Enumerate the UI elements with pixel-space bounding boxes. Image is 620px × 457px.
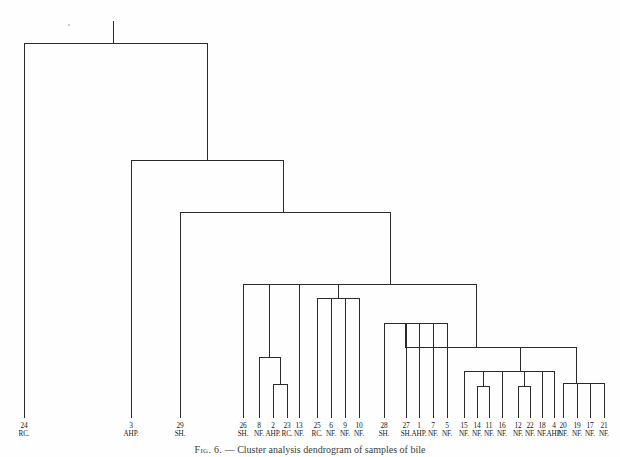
leaf-code-21: NF.: [589, 430, 619, 439]
figure-container: 24RC.3AHP.29SH.26SH.8NF.2AHP.23RC.13NF.2…: [0, 0, 620, 457]
leaf-id-29: 29: [165, 421, 195, 430]
figure-caption: Fig. 6. — Cluster analysis dendrogram of…: [60, 444, 560, 456]
caption-text: Cluster analysis dendrogram of samples o…: [237, 444, 425, 455]
caption-label: Fig. 6.: [195, 444, 223, 455]
dendrogram-plot: [0, 0, 620, 457]
leaf-id-24: 24: [9, 421, 39, 430]
leaf-label-21[interactable]: 21NF.: [589, 421, 619, 439]
leaf-code-3: AHP.: [116, 430, 146, 439]
leaf-id-3: 3: [116, 421, 146, 430]
leaf-label-24[interactable]: 24RC.: [9, 421, 39, 439]
leaf-id-21: 21: [589, 421, 619, 430]
leaf-tick-marks: [24, 406, 604, 418]
caption-dash: —: [225, 444, 235, 455]
dendrogram-branches: [24, 21, 604, 412]
leaf-label-3[interactable]: 3AHP.: [116, 421, 146, 439]
leaf-label-29[interactable]: 29SH.: [165, 421, 195, 439]
leaf-code-24: RC.: [9, 430, 39, 439]
leaf-code-29: SH.: [165, 430, 195, 439]
